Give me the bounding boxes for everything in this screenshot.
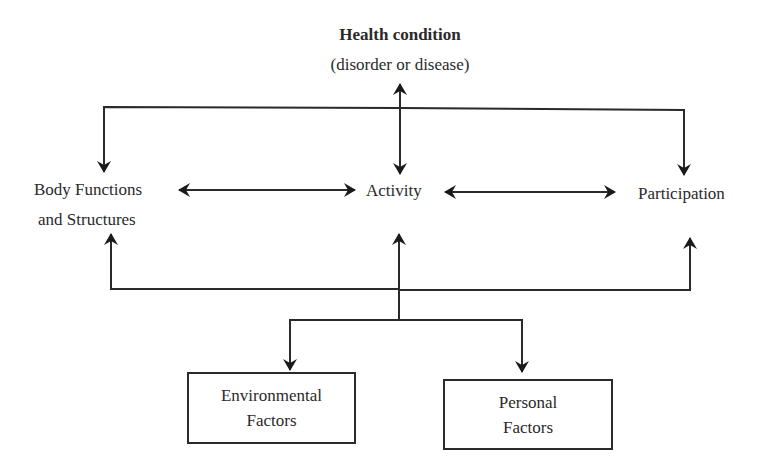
health-to-body-arrow [104, 107, 400, 172]
environmental-factors-box: Environmental Factors [187, 372, 356, 444]
personal-factors-line1: Personal [499, 390, 558, 415]
to-personal-arrow [399, 320, 522, 372]
personal-factors-line2: Factors [503, 415, 553, 440]
environmental-factors-line1: Environmental [221, 383, 322, 408]
health-condition-subtitle: (disorder or disease) [300, 52, 500, 78]
context-to-participation-arrow [399, 238, 690, 290]
to-environmental-arrow [290, 320, 399, 370]
activity-label: Activity [366, 178, 422, 204]
context-to-body-arrow [111, 234, 399, 289]
personal-factors-box: Personal Factors [443, 379, 613, 450]
body-functions-label: Body Functions [34, 177, 142, 203]
participation-label: Participation [638, 181, 725, 207]
health-to-participation-arrow [400, 108, 684, 175]
environmental-factors-line2: Factors [246, 408, 296, 433]
body-structures-label: and Structures [38, 207, 136, 233]
health-condition-title: Health condition [300, 22, 500, 48]
